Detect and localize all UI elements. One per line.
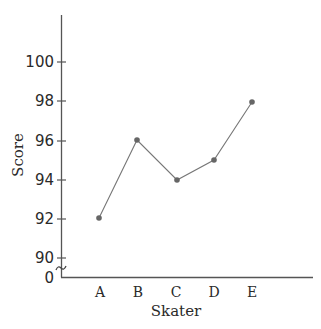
y-tick-98: 98 [35,92,54,110]
point-e [249,99,255,105]
x-label-b: B [133,284,143,300]
y-tick-92: 92 [35,210,54,228]
y-tick-90: 90 [35,249,54,267]
x-label-c: C [171,284,182,300]
y-tick-94: 94 [35,171,54,189]
x-label-e: E [247,284,257,300]
point-d [211,157,217,163]
data-points [96,99,255,221]
point-b [134,137,140,143]
point-a [96,215,102,221]
score-line [99,102,252,218]
y-tick-100: 100 [25,53,54,71]
x-tick-labels: A B C D E [94,284,257,300]
y-axis-title: Score [9,133,27,177]
y-tick-0: 0 [44,269,54,287]
point-c [174,177,180,183]
y-tick-labels: 100 98 96 94 92 90 0 [25,53,54,287]
y-tick-96: 96 [35,132,54,150]
x-axis-title: Skater [151,302,202,320]
x-label-a: A [94,284,106,300]
x-label-d: D [208,284,219,300]
line-chart: 100 98 96 94 92 90 0 A B C D E Skater [0,0,321,329]
